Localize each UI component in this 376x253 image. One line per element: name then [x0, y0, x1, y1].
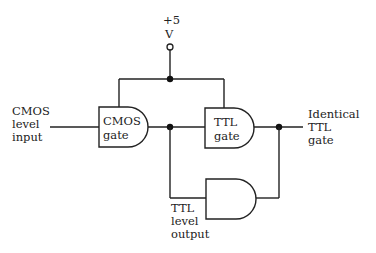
- output-label-line3: output: [171, 227, 210, 241]
- circuit-diagram: +5 V CMOS level input CMOS gate TTL gate…: [0, 0, 376, 253]
- supply-terminal-icon: [167, 44, 173, 50]
- output-label-line2: level: [171, 214, 199, 228]
- output-label-line1: TTL: [171, 201, 195, 215]
- identical-label-line1: Identical: [308, 107, 360, 121]
- supply-junction-dot: [167, 76, 173, 82]
- cmos-gate-label-line2: gate: [103, 128, 129, 142]
- ttl-gate-label-line2: gate: [214, 129, 240, 143]
- ttl-gate-label-line1: TTL: [214, 115, 238, 129]
- identical-label-line2: TTL: [308, 120, 332, 134]
- input-label-line3: input: [12, 130, 43, 144]
- cmos-gate-label-line1: CMOS: [103, 114, 141, 128]
- identical-label-line3: gate: [308, 133, 334, 147]
- supply-label-plus5: +5: [163, 13, 180, 27]
- input-label-line2: level: [12, 117, 40, 131]
- input-label-line1: CMOS: [12, 104, 50, 118]
- identical-gate-icon: [206, 179, 256, 219]
- supply-label-v: V: [164, 27, 174, 41]
